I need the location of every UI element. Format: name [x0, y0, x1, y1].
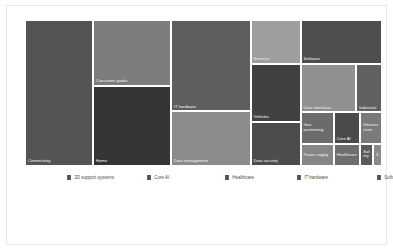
- treemap-tile-label: 3: [376, 153, 380, 158]
- figure-frame: ConnectivityConsumer goodsHomeIT hardwar…: [6, 5, 387, 245]
- treemap-tile-label: User interfaces: [304, 106, 355, 111]
- treemap-tile-label: Data management: [174, 159, 249, 164]
- treemap-tile-label: Healthcare: [337, 153, 358, 158]
- treemap-tile-label: IT hardware: [174, 105, 249, 110]
- legend-item[interactable]: Core AI: [147, 171, 225, 184]
- legend-swatch-icon: [147, 175, 151, 179]
- treemap-tile-label: Consumer goods: [96, 79, 169, 84]
- legend-item[interactable]: IT hardware: [297, 171, 377, 184]
- treemap-tile-label: Services: [254, 57, 299, 62]
- treemap-figure: ConnectivityConsumer goodsHomeIT hardwar…: [0, 0, 393, 250]
- legend-swatch-icon: [377, 175, 381, 179]
- treemap-tile-data-management[interactable]: Data management: [171, 111, 251, 166]
- treemap-tile-label: Connectivity: [28, 159, 91, 164]
- legend-item[interactable]: Software: [377, 171, 393, 184]
- legend-label: Core AI: [154, 175, 169, 180]
- treemap-tile-label: Home: [96, 159, 169, 164]
- legend-swatch-icon: [225, 175, 229, 179]
- treemap-plot-area: ConnectivityConsumer goodsHomeIT hardwar…: [25, 20, 382, 166]
- legend-swatch-icon: [297, 175, 301, 179]
- treemap-tile-consumer-goods[interactable]: Consumer goods: [93, 20, 171, 86]
- treemap-tile-3d-support-systems[interactable]: 3: [373, 144, 382, 166]
- treemap-tile-geo-positioning[interactable]: Geo positioning: [301, 112, 334, 143]
- legend-label: 3D support systems: [74, 175, 114, 180]
- treemap-tile-power-supply[interactable]: Power supply: [301, 144, 334, 166]
- treemap-tile-label: Software: [304, 57, 380, 62]
- legend-label: Software: [384, 175, 393, 180]
- treemap-tile-label: Safety: [363, 150, 371, 159]
- treemap-tile-software[interactable]: Software: [301, 20, 382, 64]
- treemap-tile-infrastructure[interactable]: Infrastructure: [360, 112, 382, 143]
- legend-label: Healthcare: [232, 175, 254, 180]
- treemap-tile-safety[interactable]: Safety: [360, 144, 373, 166]
- treemap-tile-data-security[interactable]: Data security: [251, 122, 301, 166]
- treemap-tile-label: Industrial: [359, 106, 380, 111]
- treemap-tile-label: Geo positioning: [304, 123, 332, 132]
- treemap-tile-connectivity[interactable]: Connectivity: [25, 20, 93, 166]
- treemap-tile-services[interactable]: Services: [251, 20, 301, 64]
- treemap-tile-label: Infrastructure: [363, 123, 380, 132]
- treemap-tile-it-hardware[interactable]: IT hardware: [171, 20, 251, 111]
- chart-legend: 3D support systemsCore AIHealthcareIT ha…: [25, 171, 382, 237]
- treemap-tile-vehicles[interactable]: Vehicles: [251, 64, 301, 122]
- treemap-tile-label: Data security: [254, 159, 299, 164]
- treemap-tile-label: Power supply: [304, 153, 332, 158]
- treemap-tile-core-ai[interactable]: Core AI: [334, 112, 360, 143]
- treemap-tile-home[interactable]: Home: [93, 86, 171, 166]
- legend-label: IT hardware: [304, 175, 328, 180]
- legend-item[interactable]: Healthcare: [225, 171, 297, 184]
- treemap-tile-industrial[interactable]: Industrial: [356, 64, 382, 112]
- legend-swatch-icon: [67, 175, 71, 179]
- treemap-tile-label: Core AI: [337, 137, 358, 142]
- treemap-tile-user-interfaces[interactable]: User interfaces: [301, 64, 357, 112]
- legend-item[interactable]: 3D support systems: [67, 171, 147, 184]
- treemap-tile-label: Vehicles: [254, 115, 299, 120]
- treemap-tile-healthcare[interactable]: Healthcare: [334, 144, 360, 166]
